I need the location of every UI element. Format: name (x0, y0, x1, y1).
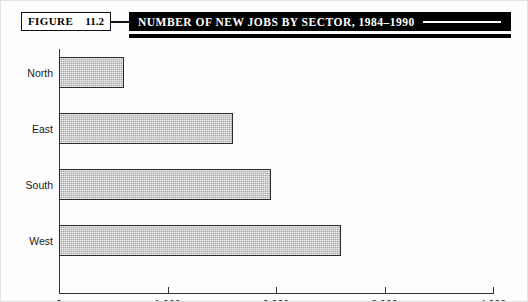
category-label-west: West (1, 236, 53, 247)
category-label-north: North (1, 68, 53, 79)
bar-west (59, 225, 341, 256)
category-label-south: South (1, 180, 53, 191)
figure-header: FIGURE 11.2 NUMBER OF NEW JOBS BY SECTOR… (1, 1, 528, 47)
figure-label-number: 11.2 (85, 16, 104, 27)
figure-container: FIGURE 11.2 NUMBER OF NEW JOBS BY SECTOR… (0, 0, 528, 302)
category-label-east: East (1, 124, 53, 135)
bar-north (59, 57, 124, 88)
figure-label-box: FIGURE 11.2 (21, 12, 111, 31)
x-tick-3000 (385, 287, 386, 294)
plot-area: NorthEastSouthWest 01,0002,0003,0004,000… (1, 47, 528, 302)
bar-east (59, 113, 233, 144)
x-tick-4000 (493, 287, 494, 294)
bar-south (59, 169, 271, 200)
x-tick-2000 (276, 287, 277, 294)
title-rule (423, 21, 501, 23)
figure-label-word: FIGURE (28, 16, 73, 27)
banner-shadow-bar (129, 34, 511, 38)
title-banner: NUMBER OF NEW JOBS BY SECTOR, 1984–1990 (129, 12, 511, 31)
chart-title: NUMBER OF NEW JOBS BY SECTOR, 1984–1990 (138, 16, 415, 28)
label-connector-line (111, 21, 129, 23)
x-tick-1000 (168, 287, 169, 294)
